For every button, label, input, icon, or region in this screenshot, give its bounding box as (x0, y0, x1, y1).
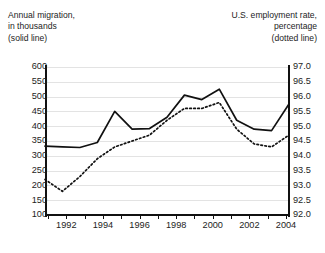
axis-tick-label: 92.0 (293, 210, 311, 219)
annual-migration-line (45, 89, 289, 147)
axis-tick-label: 550 (32, 77, 47, 86)
plot-area (45, 67, 289, 215)
x-tick-label: 2004 (276, 221, 296, 230)
axis-tick-label: 100 (32, 210, 47, 219)
x-tick-label: 1998 (166, 221, 186, 230)
x-tick (286, 215, 287, 219)
x-tick (66, 215, 67, 219)
x-tick (249, 215, 250, 219)
axis-tick-label: 96.5 (293, 77, 311, 86)
migration-employment-chart: Annual migration, in thousands (solid li… (0, 0, 325, 253)
axis-tick-label: 350 (32, 136, 47, 145)
right-axis-caption: U.S. employment rate, percentage (dotted… (232, 10, 318, 44)
x-tick (231, 215, 232, 219)
right-axis-spine (288, 65, 290, 217)
axis-tick-label: 92.5 (293, 196, 311, 205)
bottom-axis-spine (45, 214, 290, 216)
x-tick (194, 215, 195, 219)
axis-tick-label: 250 (32, 166, 47, 175)
x-tick (213, 215, 214, 219)
axis-tick-label: 500 (32, 92, 47, 101)
x-tick-label: 1992 (56, 221, 76, 230)
axis-tick-label: 93.5 (293, 166, 311, 175)
axis-tick-label: 97.0 (293, 62, 311, 71)
axis-tick-label: 200 (32, 181, 47, 190)
x-tick-label: 1996 (129, 221, 149, 230)
axis-tick-label: 94.0 (293, 151, 311, 160)
axis-tick-label: 300 (32, 151, 47, 160)
x-tick-label: 2000 (203, 221, 223, 230)
x-tick (85, 215, 86, 219)
axis-tick-label: 150 (32, 196, 47, 205)
series-layer (45, 67, 289, 215)
x-tick (121, 215, 122, 219)
x-tick (268, 215, 269, 219)
x-tick (158, 215, 159, 219)
x-tick (103, 215, 104, 219)
x-tick-label: 2002 (239, 221, 259, 230)
x-tick-label: 1994 (93, 221, 113, 230)
axis-tick-label: 600 (32, 62, 47, 71)
left-axis-caption: Annual migration, in thousands (solid li… (8, 10, 75, 44)
x-tick (48, 215, 49, 219)
axis-tick-label: 400 (32, 122, 47, 131)
axis-tick-label: 450 (32, 107, 47, 116)
x-tick (176, 215, 177, 219)
axis-tick-label: 96.0 (293, 92, 311, 101)
x-tick (140, 215, 141, 219)
axis-tick-label: 94.5 (293, 136, 311, 145)
axis-tick-label: 93.0 (293, 181, 311, 190)
axis-tick-label: 95.0 (293, 122, 311, 131)
axis-tick-label: 95.5 (293, 107, 311, 116)
